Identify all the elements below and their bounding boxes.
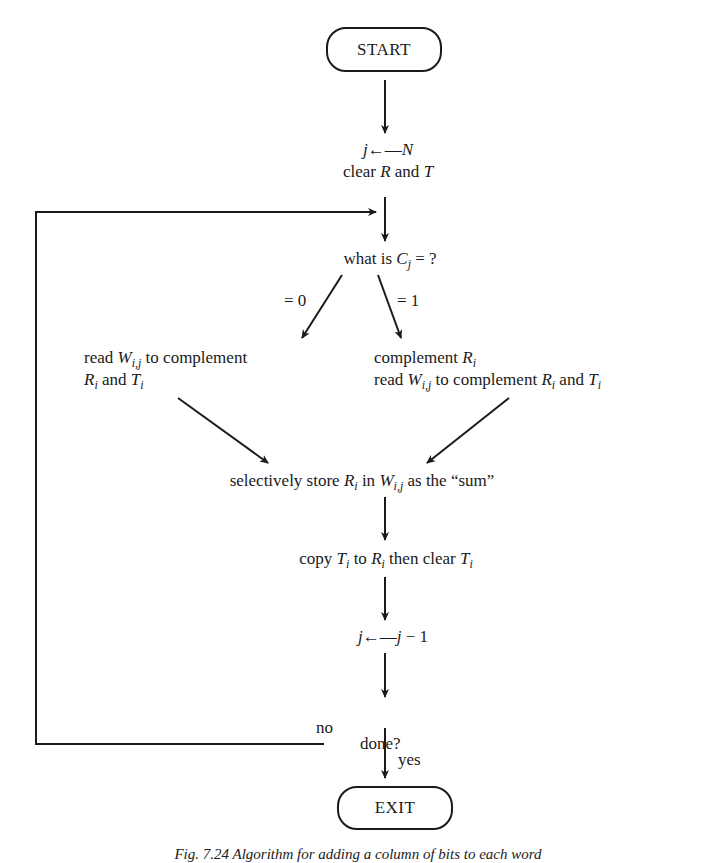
store-node: selectively store Ri in Wi,j as the “sum… [230, 471, 495, 491]
arrow-right-to-store [427, 398, 509, 463]
exit-terminal: EXIT [337, 786, 453, 830]
no-label: no [316, 718, 333, 738]
start-label: START [357, 40, 411, 60]
left-arrow-icon: ← [363, 627, 380, 646]
left-action-line1: read Wi,j to complement [84, 348, 247, 368]
left-arrow-icon: ← [368, 140, 385, 159]
init-assign: j←―N [363, 140, 413, 160]
exit-label: EXIT [375, 798, 416, 818]
done-node: done? [360, 734, 401, 754]
right-action-line1: complement Ri [374, 348, 476, 368]
arrow-left-to-store [178, 398, 268, 463]
arrow-branch-zero [302, 275, 342, 338]
yes-label: yes [398, 750, 421, 770]
decrement-node: j←―j − 1 [358, 627, 428, 647]
start-terminal: START [326, 27, 442, 72]
init-clear: clear R and T [343, 162, 433, 182]
decision-node: what is Cj = ? [343, 249, 436, 269]
copy-node: copy Ti to Ri then clear Ti [299, 549, 472, 569]
left-action-line2: Ri and Ti [84, 370, 144, 390]
figure-caption: Fig. 7.24 Algorithm for adding a column … [174, 846, 541, 863]
branch-zero-label: = 0 [284, 291, 306, 311]
branch-one-label: = 1 [397, 291, 419, 311]
right-action-line2: read Wi,j to complement Ri and Ti [374, 370, 601, 390]
